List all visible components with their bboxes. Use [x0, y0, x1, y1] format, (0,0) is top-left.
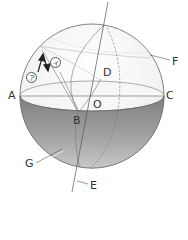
circled-label-i: イ — [50, 57, 61, 68]
label-O: O — [93, 99, 102, 110]
label-B: B — [73, 115, 81, 126]
label-F: F — [172, 56, 178, 67]
label-C: C — [166, 90, 174, 101]
label-A: A — [8, 90, 16, 101]
leader-E — [77, 181, 88, 184]
label-D: D — [103, 67, 111, 78]
label-G: G — [25, 158, 34, 169]
label-E: E — [90, 180, 97, 191]
circled-label-a: ア — [26, 72, 37, 83]
